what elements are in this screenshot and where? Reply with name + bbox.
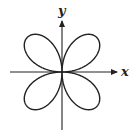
x-axis-label: x (120, 64, 129, 79)
y-axis-label: y (57, 3, 67, 18)
rose-curve-diagram: x y (0, 0, 133, 134)
